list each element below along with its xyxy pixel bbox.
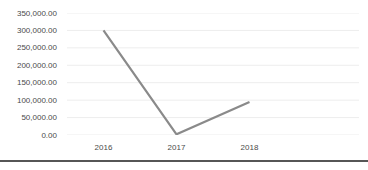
y-axis-tick-label: 150,000.00 (0, 78, 57, 87)
divider-line (0, 160, 368, 162)
chart-plot-area (67, 13, 359, 135)
document-page: 350,000.00300,000.00250,000.00200,000.00… (0, 0, 368, 170)
y-axis-tick-label: 350,000.00 (0, 9, 57, 18)
x-axis-tick-label: 2018 (241, 143, 259, 152)
x-axis-tick-label: 2017 (168, 143, 186, 152)
x-axis-tick-label: 2016 (95, 143, 113, 152)
y-axis-tick-label: 50,000.00 (0, 113, 57, 122)
y-axis-tick-label: 300,000.00 (0, 26, 57, 35)
y-axis-tick-label: 0.00 (0, 131, 57, 140)
chart-plot-svg (67, 13, 359, 135)
y-axis-tick-label: 250,000.00 (0, 43, 57, 52)
line-chart: 350,000.00300,000.00250,000.00200,000.00… (0, 0, 368, 160)
y-axis-tick-label: 200,000.00 (0, 61, 57, 70)
y-axis-tick-label: 100,000.00 (0, 96, 57, 105)
